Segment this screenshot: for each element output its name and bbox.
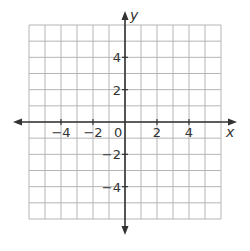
x-axis-left-arrow-icon (13, 119, 22, 126)
y-tick-label: −4 (102, 180, 121, 195)
y-tick-label: 2 (113, 83, 121, 98)
y-tick-label: 4 (113, 50, 121, 65)
y-tick-label: −2 (102, 147, 121, 162)
coordinate-plane: −4−22442−2−4 x y 0 (0, 0, 250, 251)
x-tick-label: 4 (185, 125, 193, 140)
x-tick-label: −2 (83, 125, 102, 140)
y-axis-label: y (129, 7, 139, 23)
origin-label: 0 (114, 125, 122, 140)
x-tick-label: −4 (51, 125, 70, 140)
y-axis-up-arrow-icon (122, 11, 129, 20)
x-tick-label: 2 (153, 125, 161, 140)
y-axis-down-arrow-icon (122, 226, 129, 235)
x-axis-label: x (225, 124, 235, 140)
axes (13, 11, 237, 235)
